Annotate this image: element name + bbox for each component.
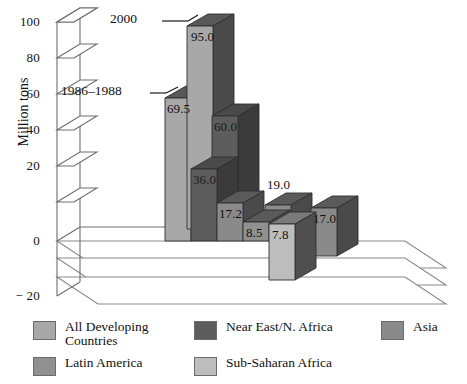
value-label-17-2: 17.2 [219, 206, 242, 222]
legend-label-all-developing: All Developing Countries [65, 320, 149, 347]
legend-swatch-icon-all-developing [33, 321, 56, 340]
legend-swatch-icon-near-east [194, 321, 217, 340]
legend-item-sub-saharan-africa[interactable]: Sub-Saharan Africa [194, 356, 332, 376]
bar-sub-saharan-7-8 [269, 212, 316, 280]
value-label-19: 19.0 [267, 177, 290, 193]
y-tick-100: 100 [6, 14, 40, 30]
legend-item-latin-america[interactable]: Latin America [33, 356, 143, 376]
y-tick-60: 60 [6, 86, 40, 102]
value-label-8-5: 8.5 [246, 225, 263, 241]
value-label-69-5: 69.5 [167, 101, 190, 117]
legend-swatch-icon-latin-america [33, 357, 56, 376]
legend-label-asia: Asia [413, 320, 438, 334]
y-axis-title: Million tons [16, 52, 32, 172]
legend-item-all-developing-countries[interactable]: All Developing Countries [33, 320, 149, 347]
value-label-17-0: 17.0 [313, 211, 336, 227]
y-tick-neg20: − 20 [0, 288, 40, 304]
legend-label-sub-saharan: Sub-Saharan Africa [226, 356, 332, 370]
floor-plane [57, 241, 446, 304]
value-label-60: 60.0 [214, 119, 237, 135]
value-label-95: 95.0 [191, 29, 214, 45]
legend-swatch-icon-asia [381, 321, 404, 340]
annotation-1986-1988: 1986–1988 [61, 83, 122, 99]
legend-label-latin-america: Latin America [65, 356, 143, 370]
legend-swatch-icon-sub-saharan [194, 357, 217, 376]
value-label-36: 36.0 [193, 172, 216, 188]
annotation-2000: 2000 [110, 11, 137, 27]
y-tick-40: 40 [6, 122, 40, 138]
value-label-7-8: 7.8 [272, 227, 289, 243]
chart-container: Million tons 100 80 60 40 20 0 − 20 2000… [0, 0, 467, 384]
legend-item-near-east-n-africa[interactable]: Near East/N. Africa [194, 320, 333, 340]
y-tick-0: 0 [6, 233, 40, 249]
chart-legend: All Developing Countries Near East/N. Af… [0, 312, 467, 384]
y-tick-80: 80 [6, 50, 40, 66]
legend-label-near-east: Near East/N. Africa [226, 320, 333, 334]
legend-item-asia[interactable]: Asia [381, 320, 438, 340]
y-tick-20: 20 [6, 158, 40, 174]
